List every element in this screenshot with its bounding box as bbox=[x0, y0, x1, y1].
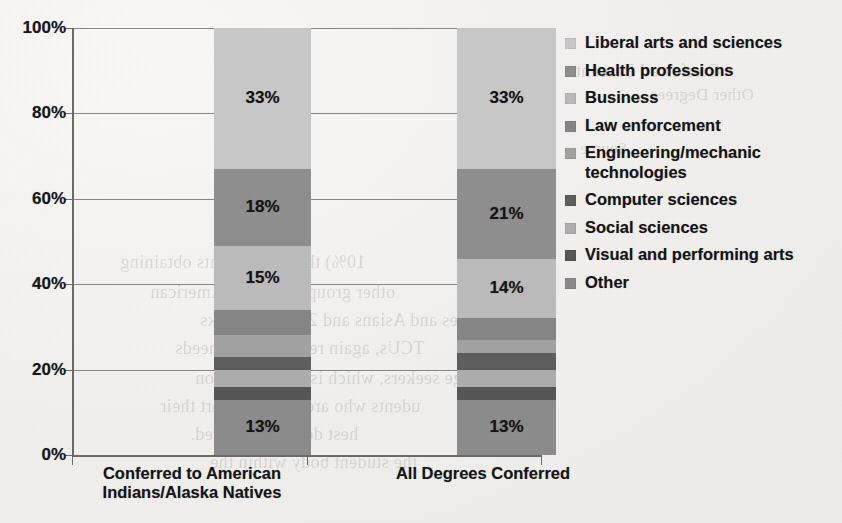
legend-label: Visual and performing arts bbox=[585, 245, 794, 265]
x-axis-category-line: Indians/Alaska Natives bbox=[92, 483, 292, 502]
bar-segment[interactable]: 13% bbox=[214, 400, 311, 456]
bar-segment-value-label: 21% bbox=[457, 205, 556, 222]
y-axis-tick-label: 20% bbox=[4, 360, 66, 380]
x-axis-tick bbox=[541, 456, 542, 465]
legend-label: Social sciences bbox=[585, 218, 708, 238]
legend-label-line: Engineering/mechanic bbox=[585, 143, 761, 163]
bar-segment[interactable] bbox=[457, 370, 556, 387]
legend-swatch-icon bbox=[565, 250, 576, 261]
legend-item[interactable]: Business bbox=[565, 88, 837, 108]
x-axis-category-line: All Degrees Conferred bbox=[368, 464, 598, 483]
bar-segment[interactable] bbox=[214, 387, 311, 400]
legend-label: Other bbox=[585, 273, 629, 293]
y-axis-tick-label: 0% bbox=[4, 445, 66, 465]
bar-segment[interactable]: 21% bbox=[457, 169, 556, 259]
bar-segment[interactable]: 14% bbox=[457, 259, 556, 319]
bar-segment-value-label: 15% bbox=[214, 269, 311, 286]
y-axis-tick-label: 100% bbox=[4, 18, 66, 38]
legend-item[interactable]: Social sciences bbox=[565, 218, 837, 238]
bar-segment[interactable]: 15% bbox=[214, 246, 311, 310]
bar-segment[interactable] bbox=[214, 310, 311, 336]
bar-segment-value-label: 33% bbox=[214, 89, 311, 106]
bar-segment[interactable]: 18% bbox=[214, 169, 311, 246]
bar-segment-value-label: 13% bbox=[214, 418, 311, 435]
legend-item[interactable]: Other bbox=[565, 273, 837, 293]
legend-item[interactable]: Visual and performing arts bbox=[565, 245, 837, 265]
legend-swatch-icon bbox=[565, 121, 576, 132]
legend-item[interactable]: Law enforcement bbox=[565, 116, 837, 136]
chart-legend: Liberal arts and sciencesHealth professi… bbox=[565, 33, 837, 300]
x-axis-category-label: Conferred to AmericanIndians/Alaska Nati… bbox=[92, 464, 292, 502]
legend-item[interactable]: Health professions bbox=[565, 61, 837, 81]
x-axis-category-line: Conferred to American bbox=[92, 464, 292, 483]
x-axis-category-label: All Degrees Conferred bbox=[368, 464, 598, 483]
bar-segment[interactable] bbox=[457, 387, 556, 400]
x-axis-tick bbox=[72, 456, 73, 465]
bar-conferred-to-american-indians[interactable]: 13%15%18%33% bbox=[214, 28, 311, 455]
x-axis-tick bbox=[307, 456, 308, 465]
legend-label: Law enforcement bbox=[585, 116, 721, 136]
legend-label: Liberal arts and sciences bbox=[585, 33, 782, 53]
stacked-bar-chart: 0%20%40%60%80%100% 13%15%18%33% 13%14%21… bbox=[0, 0, 842, 523]
bar-segment-value-label: 14% bbox=[457, 279, 556, 296]
legend-item[interactable]: Computer sciences bbox=[565, 190, 837, 210]
bar-all-degrees-conferred[interactable]: 13%14%21%33% bbox=[457, 28, 556, 455]
bar-segment-value-label: 18% bbox=[214, 198, 311, 215]
bar-segment[interactable] bbox=[457, 353, 556, 370]
legend-label: Computer sciences bbox=[585, 190, 737, 210]
bar-segment[interactable]: 33% bbox=[214, 28, 311, 169]
bar-segment[interactable] bbox=[214, 335, 311, 356]
legend-swatch-icon bbox=[565, 195, 576, 206]
bar-segment-value-label: 13% bbox=[457, 418, 556, 435]
bar-segment-value-label: 33% bbox=[457, 89, 556, 106]
legend-label: Engineering/mechanictechnologies bbox=[585, 143, 761, 182]
legend-label: Health professions bbox=[585, 61, 734, 81]
legend-swatch-icon bbox=[565, 93, 576, 104]
legend-swatch-icon bbox=[565, 38, 576, 49]
bar-segment[interactable] bbox=[214, 370, 311, 387]
y-axis-tick-label: 60% bbox=[4, 189, 66, 209]
legend-swatch-icon bbox=[565, 66, 576, 77]
bar-segments: 13%14%21%33% bbox=[457, 28, 556, 455]
legend-item[interactable]: Engineering/mechanictechnologies bbox=[565, 143, 837, 182]
legend-item[interactable]: Liberal arts and sciences bbox=[565, 33, 837, 53]
legend-swatch-icon bbox=[565, 223, 576, 234]
legend-label: Business bbox=[585, 88, 658, 108]
legend-swatch-icon bbox=[565, 278, 576, 289]
y-axis-tick-label: 40% bbox=[4, 274, 66, 294]
bar-segment[interactable] bbox=[457, 340, 556, 353]
plot-area: 13%15%18%33% 13%14%21%33% bbox=[72, 28, 540, 455]
legend-label-line: technologies bbox=[585, 163, 761, 183]
bar-segment[interactable]: 13% bbox=[457, 400, 556, 456]
bar-segments: 13%15%18%33% bbox=[214, 28, 311, 455]
bar-segment[interactable]: 33% bbox=[457, 28, 556, 169]
y-axis-tick-label: 80% bbox=[4, 103, 66, 123]
legend-swatch-icon bbox=[565, 148, 576, 159]
bar-segment[interactable] bbox=[457, 318, 556, 339]
bar-segment[interactable] bbox=[214, 357, 311, 370]
